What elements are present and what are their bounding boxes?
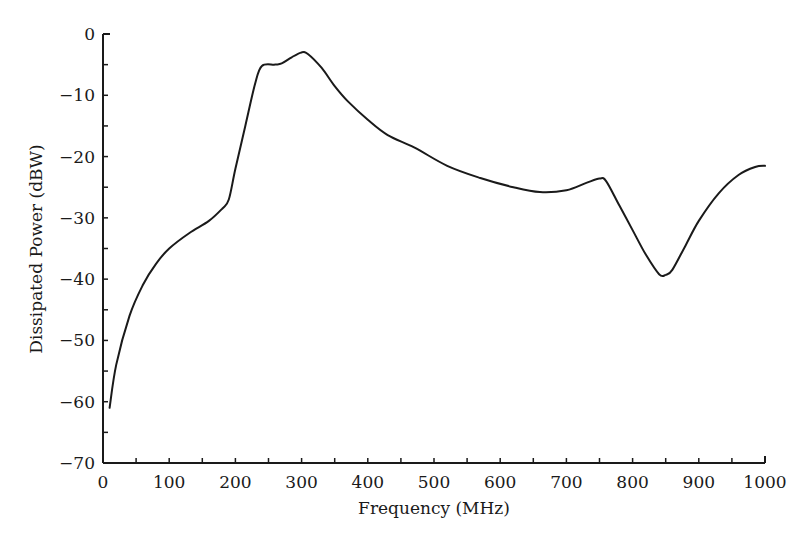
y-tick-label: −40 bbox=[59, 269, 95, 289]
y-tick-label: −30 bbox=[59, 208, 95, 228]
x-tick-label: 600 bbox=[484, 472, 516, 492]
x-tick-label: 400 bbox=[352, 472, 384, 492]
y-tick-label: −20 bbox=[59, 147, 95, 167]
y-axis-ticks: 0−10−20−30−40−50−60−70 bbox=[59, 24, 108, 473]
data-line bbox=[110, 52, 765, 408]
x-tick-label: 100 bbox=[153, 472, 185, 492]
x-tick-label: 1000 bbox=[743, 472, 786, 492]
x-tick-label: 300 bbox=[285, 472, 317, 492]
chart: 01002003004005006007008009001000 0−10−20… bbox=[0, 0, 805, 538]
axes bbox=[103, 34, 765, 463]
x-tick-label: 200 bbox=[219, 472, 251, 492]
y-tick-label: 0 bbox=[84, 24, 95, 44]
x-axis-title: Frequency (MHz) bbox=[358, 498, 510, 518]
y-tick-label: −70 bbox=[59, 453, 95, 473]
y-tick-label: −60 bbox=[59, 392, 95, 412]
x-tick-label: 0 bbox=[98, 472, 109, 492]
y-tick-label: −50 bbox=[59, 330, 95, 350]
x-tick-label: 800 bbox=[616, 472, 648, 492]
y-tick-label: −10 bbox=[59, 85, 95, 105]
x-tick-label: 500 bbox=[418, 472, 450, 492]
x-tick-label: 700 bbox=[550, 472, 582, 492]
y-axis-title: Dissipated Power (dBW) bbox=[26, 144, 46, 353]
x-tick-label: 900 bbox=[683, 472, 715, 492]
